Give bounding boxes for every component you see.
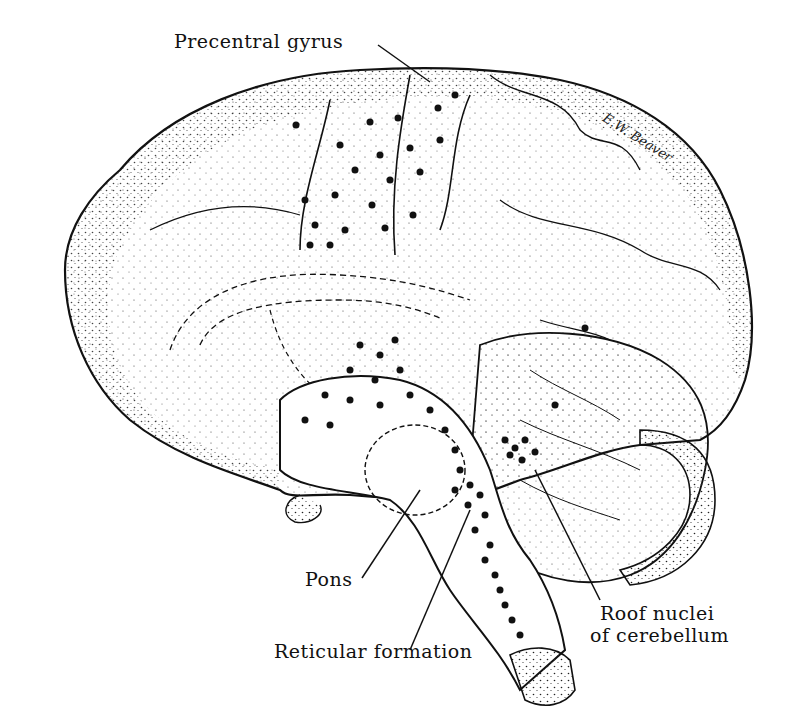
- label-reticular-formation: Reticular formation: [274, 640, 472, 662]
- label-pons: Pons: [305, 568, 352, 590]
- label-roof-nuclei: Roof nuclei: [600, 602, 714, 624]
- label-precentral-gyrus: Precentral gyrus: [174, 30, 343, 52]
- label-of-cerebellum: of cerebellum: [590, 624, 729, 646]
